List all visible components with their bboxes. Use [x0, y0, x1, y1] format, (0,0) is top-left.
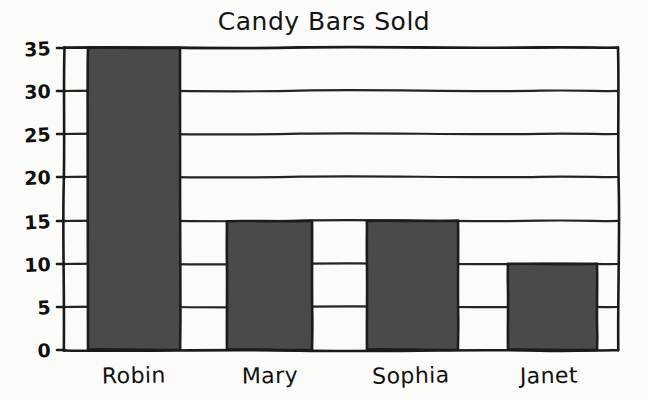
plot-right-border	[618, 48, 619, 351]
x-axis-labels: Robin Mary Sophia Janet	[102, 362, 578, 388]
bar-robin[interactable]	[87, 47, 180, 350]
x-label-mary: Mary	[242, 363, 299, 389]
y-tick-label-5: 5	[37, 296, 51, 319]
x-label-sophia: Sophia	[372, 362, 450, 388]
bar-chart: Candy Bars Sold	[0, 0, 648, 400]
bar-janet[interactable]	[508, 264, 598, 350]
y-tick-label-20: 20	[24, 166, 51, 189]
y-tick-label-35: 35	[24, 37, 52, 60]
bar-sophia[interactable]	[367, 221, 458, 350]
y-tick-label-15: 15	[24, 210, 52, 233]
x-label-janet: Janet	[518, 362, 579, 388]
x-axis-line	[64, 350, 618, 351]
plot-top-border	[64, 47, 618, 48]
y-tick-label-10: 10	[24, 253, 51, 276]
y-tick-label-0: 0	[37, 339, 51, 361]
chart-title: Candy Bars Sold	[218, 7, 430, 36]
y-tick-label-25: 25	[24, 123, 52, 146]
x-label-robin: Robin	[102, 362, 166, 388]
y-tick-label-30: 30	[24, 80, 51, 103]
y-axis-labels: 35 30 25 20 15 10 5 0	[24, 37, 52, 361]
bar-series	[87, 47, 597, 350]
bar-mary[interactable]	[227, 221, 313, 350]
chart-container: Candy Bars Sold	[0, 0, 648, 400]
y-axis-line	[63, 48, 64, 351]
